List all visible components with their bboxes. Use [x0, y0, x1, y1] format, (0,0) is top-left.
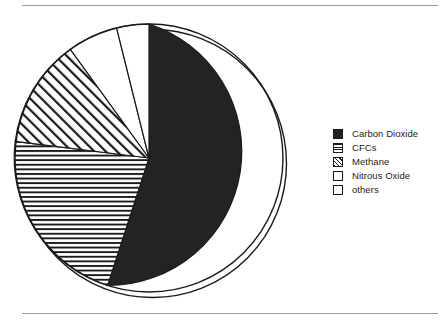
- legend-item-nitrous-oxide[interactable]: Nitrous Oxide: [333, 169, 445, 183]
- pie-chart: [10, 12, 300, 302]
- white-swatch-icon-nitrous-oxide: [333, 171, 343, 181]
- horizontal-lines-swatch-icon: [333, 143, 343, 153]
- legend-item-cfcs[interactable]: CFCs: [333, 141, 445, 155]
- chart-legend: Carbon Dioxide CFCs Methane Nitrous Oxid…: [333, 127, 445, 197]
- bottom-divider-rule: [22, 313, 438, 314]
- legend-label-nitrous-oxide: Nitrous Oxide: [352, 170, 410, 181]
- figure-canvas: Carbon Dioxide CFCs Methane Nitrous Oxid…: [0, 0, 448, 324]
- diagonal-hatch-swatch-icon: [333, 157, 343, 167]
- legend-item-methane[interactable]: Methane: [333, 155, 445, 169]
- legend-label-carbon-dioxide: Carbon Dioxide: [352, 128, 418, 139]
- legend-label-others: others: [352, 184, 379, 195]
- solid-black-swatch-icon: [333, 129, 343, 139]
- legend-label-cfcs: CFCs: [352, 142, 376, 153]
- legend-item-carbon-dioxide[interactable]: Carbon Dioxide: [333, 127, 445, 141]
- legend-label-methane: Methane: [352, 156, 389, 167]
- white-swatch-icon-others: [333, 185, 343, 195]
- pie-chart-svg: [10, 12, 300, 302]
- top-divider-rule: [22, 5, 438, 6]
- legend-item-others[interactable]: others: [333, 183, 445, 197]
